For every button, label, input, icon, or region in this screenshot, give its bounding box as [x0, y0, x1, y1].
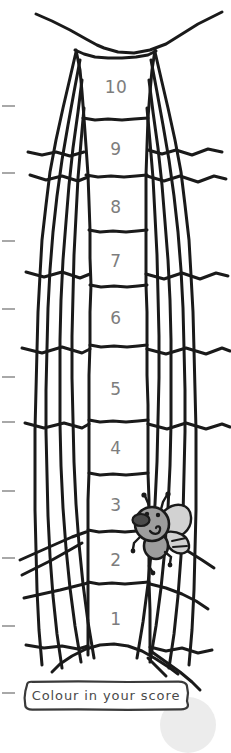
score-cell-2[interactable]: 2: [81, 552, 151, 569]
score-cell-9[interactable]: 9: [81, 141, 151, 158]
margin-tick: [2, 240, 15, 242]
margin-tick: [2, 557, 15, 559]
score-cell-3[interactable]: 3: [81, 497, 151, 514]
score-cell-5[interactable]: 5: [81, 381, 151, 398]
margin-tick: [2, 625, 15, 627]
margin-tick: [2, 308, 15, 310]
score-cell-4[interactable]: 4: [81, 440, 151, 457]
score-cell-8[interactable]: 8: [81, 199, 151, 216]
score-cell-6[interactable]: 6: [81, 310, 151, 327]
margin-tick: [2, 490, 15, 492]
score-cell-10[interactable]: 10: [81, 79, 151, 96]
margin-tick: [2, 172, 15, 174]
colour-in-your-score-box[interactable]: Colour in your score: [18, 680, 194, 711]
score-cell-1[interactable]: 1: [81, 611, 151, 628]
score-cell-7[interactable]: 7: [81, 253, 151, 270]
margin-tick: [2, 692, 15, 694]
margin-tick: [2, 105, 15, 107]
margin-tick: [2, 376, 15, 378]
score-box-label: Colour in your score: [18, 680, 194, 711]
margin-tick: [2, 421, 15, 423]
